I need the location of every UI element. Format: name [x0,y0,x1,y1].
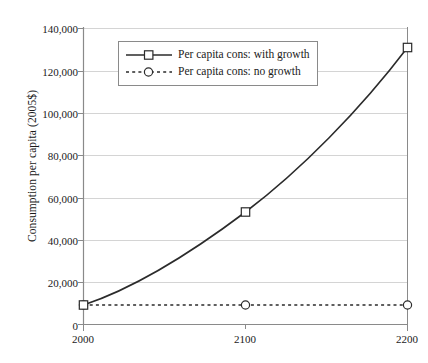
line-chart: Consumption per capita (2005$) 0 20,000 … [0,0,428,363]
legend-item-no-growth: Per capita cons: no growth [125,63,310,80]
legend-item-with-growth: Per capita cons: with growth [125,46,310,63]
x-tick-label: 2200 [377,334,428,345]
x-tick-label: 2000 [53,334,113,345]
x-tick-label: 2100 [215,334,275,345]
chart-legend: Per capita cons: with growth Per capita … [118,41,318,86]
legend-label: Per capita cons: with growth [178,48,310,61]
legend-label: Per capita cons: no growth [178,65,301,78]
legend-key-solid-square-icon [125,47,173,63]
legend-key-dotted-circle-icon [125,64,173,80]
